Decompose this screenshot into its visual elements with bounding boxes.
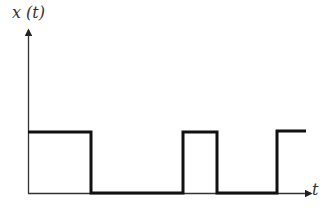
y-axis-label: x (t) xyxy=(12,3,45,22)
signal-waveform xyxy=(28,131,306,193)
time-axis-label: t xyxy=(312,180,318,199)
signal-diagram: x (t) t xyxy=(0,0,326,208)
pulse-train-plot xyxy=(0,0,326,208)
